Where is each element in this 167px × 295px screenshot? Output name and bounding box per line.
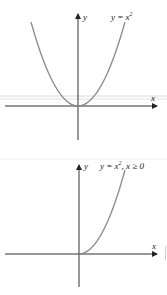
chart-half-parabola: x y y = x2, x ≥ 0 — [0, 159, 167, 287]
edge-mark — [165, 246, 166, 260]
x-axis-label: x — [151, 241, 156, 251]
y-axis-label: y — [83, 161, 88, 171]
equation-main: y = x — [99, 161, 119, 171]
figure: x y y = x2 x y y = x2, x ≥ 0 — [0, 0, 167, 295]
equation-exponent: 2 — [130, 11, 133, 17]
equation-domain: , x ≥ 0 — [122, 161, 145, 171]
equation-label: y = x2 — [110, 11, 133, 22]
equation-main: y = x — [110, 12, 130, 22]
equation-label: y = x2, x ≥ 0 — [99, 160, 144, 171]
y-axis-label: y — [82, 12, 87, 22]
chart-parabola: x y y = x2 — [0, 11, 167, 140]
half-parabola-curve — [79, 170, 125, 254]
x-axis-label: x — [150, 93, 155, 103]
